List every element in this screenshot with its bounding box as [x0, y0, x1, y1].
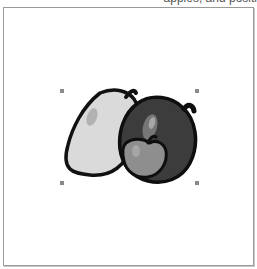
small-apple-icon: [123, 136, 167, 177]
clipped-caption-text: apples, and positi: [0, 0, 257, 5]
apples-clipart-image[interactable]: [60, 85, 205, 185]
